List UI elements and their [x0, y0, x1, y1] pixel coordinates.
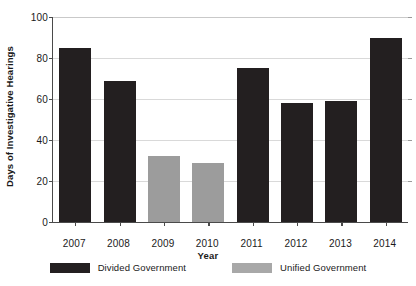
- x-tick-label-2014: 2014: [373, 238, 396, 249]
- gridline-100: [53, 17, 408, 18]
- bar-2008: [104, 81, 136, 222]
- x-tick-mark-2013: [341, 222, 342, 226]
- x-tick-mark-2008: [120, 222, 121, 226]
- y-tick-mark-right-40: [408, 140, 412, 141]
- y-tick-label-60: 60: [22, 94, 48, 105]
- legend-label: Unified Government: [280, 262, 366, 273]
- y-tick-mark-right-20: [408, 181, 412, 182]
- y-tick-mark-60: [49, 99, 53, 100]
- x-tick-label-2008: 2008: [107, 238, 130, 249]
- legend-item-divided-government[interactable]: Divided Government: [50, 262, 186, 273]
- x-tick-label-2007: 2007: [63, 238, 86, 249]
- x-tick-mark-2009: [164, 222, 165, 226]
- bar-2013: [325, 101, 357, 222]
- y-tick-mark-100: [49, 17, 53, 18]
- plot-inner: [53, 17, 408, 222]
- x-tick-mark-2012: [297, 222, 298, 226]
- x-tick-label-2013: 2013: [329, 238, 352, 249]
- x-tick-mark-2007: [75, 222, 76, 226]
- x-tick-label-2010: 2010: [196, 238, 219, 249]
- plot-area: [52, 17, 408, 223]
- bar-2014: [370, 38, 402, 223]
- x-tick-mark-2011: [253, 222, 254, 226]
- legend-item-unified-government[interactable]: Unified Government: [232, 262, 366, 273]
- y-tick-mark-right-80: [408, 58, 412, 59]
- y-tick-mark-20: [49, 181, 53, 182]
- legend-swatch-icon: [232, 263, 272, 273]
- bar-chart-figure: Days of Investigative Hearings 020406080…: [0, 0, 416, 286]
- y-tick-mark-80: [49, 58, 53, 59]
- legend-swatch-icon: [50, 263, 90, 273]
- gridline-80: [53, 58, 408, 59]
- bar-2010: [192, 163, 224, 222]
- y-tick-mark-40: [49, 140, 53, 141]
- y-tick-mark-right-60: [408, 99, 412, 100]
- chart-legend: Divided GovernmentUnified Government: [0, 262, 416, 273]
- y-axis-tick-labels: 020406080100: [18, 0, 48, 286]
- x-tick-mark-2010: [208, 222, 209, 226]
- x-tick-label-2012: 2012: [285, 238, 308, 249]
- bar-2009: [148, 156, 180, 222]
- bar-2007: [59, 48, 91, 222]
- x-tick-label-2009: 2009: [151, 238, 174, 249]
- y-tick-mark-0: [49, 222, 53, 223]
- x-axis-title: Year: [0, 250, 416, 261]
- y-tick-label-20: 20: [22, 176, 48, 187]
- y-axis-title: Days of Investigative Hearings: [0, 0, 18, 232]
- y-tick-label-80: 80: [22, 53, 48, 64]
- x-tick-label-2011: 2011: [241, 238, 263, 249]
- y-axis-title-text: Days of Investigative Hearings: [4, 46, 15, 187]
- bar-2012: [281, 103, 313, 222]
- x-tick-mark-2014: [386, 222, 387, 226]
- y-tick-label-0: 0: [22, 217, 48, 228]
- y-tick-label-100: 100: [22, 12, 48, 23]
- legend-label: Divided Government: [98, 262, 186, 273]
- bar-2011: [237, 68, 269, 222]
- y-tick-mark-right-100: [408, 17, 412, 18]
- y-tick-label-40: 40: [22, 135, 48, 146]
